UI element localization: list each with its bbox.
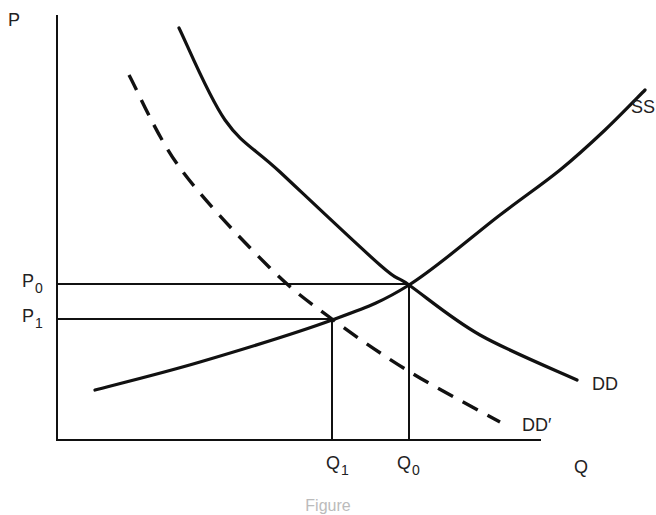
dd-prime-curve-label: DD′ xyxy=(522,416,551,434)
q1-main: Q xyxy=(326,453,340,473)
q1-sub: 1 xyxy=(341,462,349,478)
ss-curve-label: SS xyxy=(631,98,655,116)
q0-main: Q xyxy=(397,453,411,473)
p1-sub: 1 xyxy=(35,315,43,331)
dd-prime-demand-curve xyxy=(129,75,500,422)
p1-main: P xyxy=(22,306,34,326)
q1-tick-label: Q1 xyxy=(326,454,349,477)
p0-tick-label: P0 xyxy=(22,272,43,295)
y-axis-label: P xyxy=(8,11,20,29)
dd-curve-label: DD xyxy=(592,375,618,393)
q0-sub: 0 xyxy=(412,462,420,478)
figure-caption: Figure xyxy=(0,497,656,515)
p1-tick-label: P1 xyxy=(22,307,43,330)
x-axis-label: Q xyxy=(574,458,588,476)
q0-tick-label: Q0 xyxy=(397,454,420,477)
p0-main: P xyxy=(22,271,34,291)
p0-sub: 0 xyxy=(35,280,43,296)
